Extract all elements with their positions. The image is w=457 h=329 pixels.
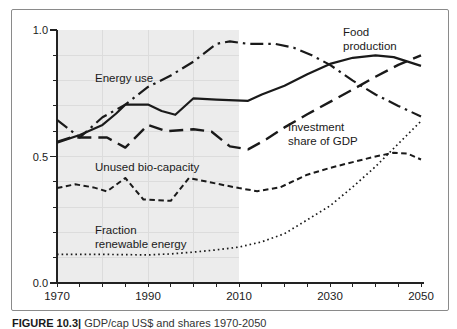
figure-frame: 1.00.50.019701990201020302050Energy useF… xyxy=(11,9,449,311)
series-label-fraction-renewable: Fraction xyxy=(95,224,137,236)
series-label-food-production: production xyxy=(343,40,397,52)
y-tick-label: 0.0 xyxy=(33,277,48,289)
x-tick-label: 2030 xyxy=(317,290,343,302)
x-tick-label: 2010 xyxy=(226,290,252,302)
y-tick-label: 0.5 xyxy=(33,151,48,163)
line-chart: 1.00.50.019701990201020302050Energy useF… xyxy=(12,10,448,310)
series-label-food-production: Food xyxy=(343,26,369,38)
series-label-unused-biocapacity: Unused bio-capacity xyxy=(95,161,199,173)
x-tick-label: 1970 xyxy=(44,290,70,302)
x-tick-label: 1990 xyxy=(135,290,161,302)
figure-caption-text: GDP/cap US$ and shares 1970-2050 xyxy=(81,317,266,329)
series-label-fraction-renewable: renewable energy xyxy=(95,238,187,250)
figure-caption-number: FIGURE 10.3| xyxy=(12,317,81,329)
series-label-investment-share: share of GDP xyxy=(288,135,358,147)
series-label-investment-share: Investment xyxy=(288,121,345,133)
series-label-energy-use: Energy use xyxy=(95,72,153,84)
figure-caption: FIGURE 10.3| GDP/cap US$ and shares 1970… xyxy=(12,317,452,329)
x-tick-label: 2050 xyxy=(408,290,434,302)
y-tick-label: 1.0 xyxy=(33,24,48,36)
